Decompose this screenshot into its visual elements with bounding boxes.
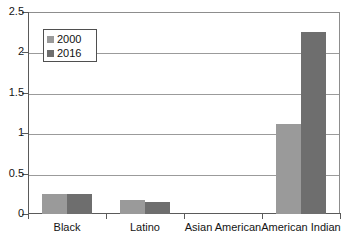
bar xyxy=(301,32,326,214)
bar xyxy=(276,124,301,214)
bar xyxy=(42,194,67,214)
legend-label-2016: 2016 xyxy=(57,48,81,59)
legend-item-2016: 2016 xyxy=(47,46,93,60)
y-axis-label: 1.5 xyxy=(0,87,24,98)
bar xyxy=(67,194,92,214)
y-axis-label: 2 xyxy=(0,46,24,57)
legend-swatch-2016 xyxy=(47,50,54,57)
x-axis-label: American Indian xyxy=(241,221,355,233)
x-axis-tick xyxy=(106,214,107,219)
y-axis-label: 0 xyxy=(0,208,24,219)
legend-label-2000: 2000 xyxy=(57,34,81,45)
y-axis-label: 2.5 xyxy=(0,6,24,17)
x-axis-tick xyxy=(340,214,341,219)
bar xyxy=(145,202,170,214)
bar-chart: 00.511.522.5 BlackLatinoAsian AmericanAm… xyxy=(0,0,355,241)
legend-item-2000: 2000 xyxy=(47,32,93,46)
y-axis-label: 0.5 xyxy=(0,168,24,179)
legend-swatch-2000 xyxy=(47,36,54,43)
x-axis-tick xyxy=(262,214,263,219)
x-axis-tick xyxy=(184,214,185,219)
y-axis-label: 1 xyxy=(0,127,24,138)
legend: 2000 2016 xyxy=(43,29,97,62)
x-axis-tick xyxy=(28,214,29,219)
bar xyxy=(120,200,145,214)
